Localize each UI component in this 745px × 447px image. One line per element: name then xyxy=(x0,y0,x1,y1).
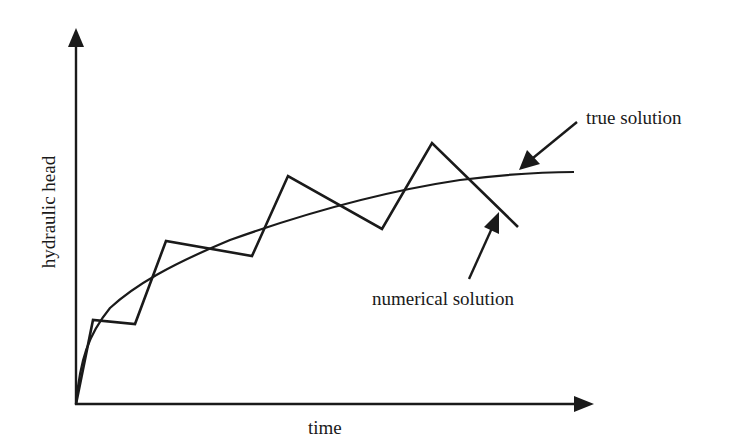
y-axis-arrow-icon xyxy=(68,28,84,47)
x-axis-arrow-icon xyxy=(574,396,594,412)
y-axis-label: hydraulic head xyxy=(38,155,59,268)
diagram-svg: true solution numerical solution time hy… xyxy=(0,0,745,447)
diagram-canvas: true solution numerical solution time hy… xyxy=(0,0,745,447)
true-solution-arrow-icon xyxy=(519,150,540,170)
numerical-solution-label: numerical solution xyxy=(372,288,514,309)
x-axis-label: time xyxy=(308,417,342,438)
true-solution-pointer xyxy=(519,122,577,170)
numerical-solution-pointer xyxy=(469,212,499,279)
axes xyxy=(68,28,594,412)
true-solution-label: true solution xyxy=(586,107,682,128)
